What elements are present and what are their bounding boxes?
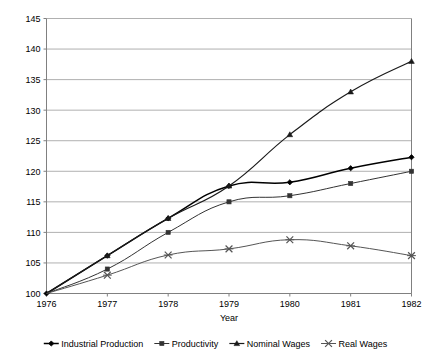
x-tick-label: 1980 [280,299,300,309]
x-axis-ticks: 1976197719781979198019811982 [36,294,421,310]
y-tick-label: 100 [25,289,40,299]
x-tick-label: 1977 [97,299,117,309]
x-tick-label: 1979 [219,299,239,309]
y-tick-label: 120 [25,167,40,177]
y-tick-label: 140 [25,44,40,54]
square-marker [227,200,231,204]
x-tick-label: 1982 [401,299,421,309]
chart-canvas: 1001051101151201251301351401451976197719… [0,0,431,358]
y-tick-label: 145 [25,14,40,24]
y-axis-ticks: 100105110115120125130135140145 [25,14,46,299]
square-marker [160,341,164,345]
legend-label: Real Wages [339,339,388,349]
y-tick-label: 105 [25,258,40,268]
x-axis-title: Year [220,313,238,323]
plot-background [47,19,412,294]
y-tick-label: 110 [26,228,40,238]
y-tick-label: 135 [25,75,40,85]
legend-label: Industrial Production [61,339,143,349]
square-marker [105,267,109,271]
y-tick-label: 130 [25,106,40,116]
x-tick-label: 1981 [341,299,361,309]
y-tick-label: 125 [25,136,40,146]
legend-label: Productivity [172,339,219,349]
legend: Industrial ProductionProductivityNominal… [44,339,388,349]
cross-marker [324,340,333,347]
x-tick-label: 1976 [36,299,56,309]
y-tick-label: 115 [26,197,40,207]
square-marker [288,194,292,198]
square-marker [409,169,413,173]
legend-label: Nominal Wages [247,339,311,349]
diamond-marker [49,341,54,346]
square-marker [166,230,170,234]
x-tick-label: 1978 [158,299,178,309]
square-marker [349,181,353,185]
line-chart: 1001051101151201251301351401451976197719… [0,0,431,358]
